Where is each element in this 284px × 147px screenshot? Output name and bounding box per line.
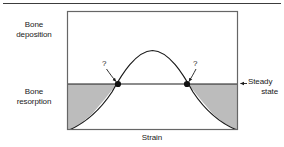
question-mark-right: ? [193, 60, 197, 68]
resorption-shade-left [68, 84, 118, 130]
question-mark-left: ? [102, 60, 106, 68]
axis-label-bone-deposition: Bone deposition [4, 20, 64, 39]
bone-resorption-line2: resorption [17, 97, 52, 106]
steady-state-line1: Steady [248, 77, 272, 86]
pointer-arrow-right [189, 69, 196, 82]
axis-label-bone-resorption: Bone resorption [4, 87, 64, 106]
figure-container: ? ? Bone deposition Bone resorption Stra… [0, 0, 284, 147]
resorption-shade-right [187, 84, 238, 130]
crossing-point-left [115, 81, 121, 87]
bone-deposition-line1: Bone [25, 20, 43, 29]
crossing-point-right [184, 81, 190, 87]
pointer-arrow-left [107, 69, 117, 82]
steady-state-line2: state [248, 87, 282, 97]
bone-deposition-line2: deposition [16, 30, 51, 39]
shaded-regions-group [68, 84, 238, 130]
annotation-steady-state: Steady state [248, 77, 282, 96]
axis-label-strain: Strain [120, 133, 184, 143]
bone-resorption-line1: Bone [25, 87, 43, 96]
